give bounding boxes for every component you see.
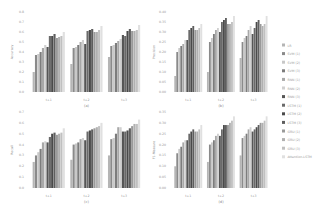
bar <box>223 125 225 188</box>
bar <box>192 129 194 188</box>
y-tick-label: 0.35 <box>159 110 166 114</box>
bar <box>35 155 37 188</box>
bar <box>93 32 95 92</box>
bar <box>44 45 46 92</box>
bar <box>82 40 84 92</box>
y-tick-label: 0.05 <box>159 175 166 179</box>
bar <box>213 140 215 188</box>
y-axis-label: Accuracy <box>10 45 14 60</box>
bar <box>129 128 131 188</box>
bar <box>120 127 122 188</box>
x-tick-label: t+2 <box>84 194 90 198</box>
legend-swatch <box>282 78 285 81</box>
y-tick-label: 0.3 <box>19 153 24 157</box>
y-tick-label: 0.7 <box>19 20 24 24</box>
bar <box>217 28 219 92</box>
bar <box>231 121 233 188</box>
bar <box>240 155 242 188</box>
bar <box>110 46 112 92</box>
bar <box>186 140 188 188</box>
bar <box>198 28 200 92</box>
bar <box>240 58 242 92</box>
bar <box>87 132 89 188</box>
bar <box>87 31 89 92</box>
bar <box>219 32 221 92</box>
bar <box>227 24 229 92</box>
bar <box>225 18 227 92</box>
bar <box>194 132 196 188</box>
bar <box>262 26 264 92</box>
legend-swatch <box>282 69 285 72</box>
bar <box>133 124 135 188</box>
bar <box>51 134 53 188</box>
legend-swatch <box>282 147 285 150</box>
bar <box>53 133 55 188</box>
legend-label: SVM (2) <box>288 61 300 65</box>
y-tick-label: 0.00 <box>159 186 166 190</box>
bar <box>120 39 122 92</box>
y-axis-label: F1-Measure <box>152 141 156 160</box>
legend: LRSVM (1)SVM (2)SVM (3)RNN (1)RNN (2)RNN… <box>282 44 312 160</box>
bar <box>248 30 250 92</box>
y-tick-label: 0.4 <box>19 143 24 147</box>
bar <box>209 42 211 92</box>
legend-label: GRU (2) <box>288 138 301 142</box>
legend-label: LSTM (1) <box>288 104 302 108</box>
bar <box>176 153 178 188</box>
legend-item: SVM (2) <box>282 61 300 65</box>
bar <box>186 40 188 92</box>
bar <box>138 25 140 92</box>
bar <box>73 145 75 188</box>
bar <box>233 16 235 92</box>
bar <box>51 36 53 92</box>
legend-swatch <box>282 104 285 107</box>
legend-label: GRU (1) <box>288 130 301 134</box>
legend-item: RNN (2) <box>282 87 300 91</box>
bar <box>56 135 58 188</box>
bar <box>242 138 244 188</box>
bar <box>184 40 186 92</box>
bar <box>246 36 248 92</box>
bar <box>248 129 250 188</box>
bar <box>256 127 258 188</box>
bar <box>117 41 119 92</box>
legend-swatch <box>282 87 285 90</box>
bar <box>84 140 86 188</box>
bar <box>176 52 178 92</box>
legend-item: SVM (3) <box>282 69 300 73</box>
y-tick-label: 0.5 <box>19 40 24 44</box>
legend-swatch <box>282 112 285 115</box>
y-tick-label: 0.2 <box>19 70 24 74</box>
bar <box>124 36 126 92</box>
bar <box>77 45 79 92</box>
bar <box>266 116 268 188</box>
bar <box>244 38 246 92</box>
bar <box>254 28 256 92</box>
bar <box>40 149 42 188</box>
chart-panel: 0.000.050.100.150.200.250.300.35F1-Measu… <box>152 110 268 204</box>
y-tick-label: 0.4 <box>19 50 24 54</box>
bar <box>198 129 200 188</box>
y-tick-label: 0.15 <box>159 60 166 64</box>
legend-item: LR <box>282 44 292 48</box>
legend-label: Attention-LSTM <box>288 155 313 159</box>
legend-item: LSTM (2) <box>282 112 302 116</box>
panel-caption: (d) <box>218 200 224 204</box>
legend-swatch <box>282 61 285 64</box>
bar <box>192 26 194 92</box>
bar <box>110 139 112 188</box>
bar <box>244 136 246 188</box>
y-tick-label: 0.30 <box>159 121 166 125</box>
bar <box>133 31 135 92</box>
x-tick-label: t+1 <box>185 98 191 102</box>
bar <box>98 126 100 188</box>
bar <box>190 28 192 92</box>
x-tick-label: t+2 <box>218 194 224 198</box>
bar <box>63 128 65 188</box>
bar <box>131 31 133 92</box>
bar <box>131 126 133 188</box>
x-tick-label: t+3 <box>251 98 257 102</box>
bar <box>174 166 176 188</box>
bar <box>73 48 75 92</box>
bar <box>207 72 209 92</box>
